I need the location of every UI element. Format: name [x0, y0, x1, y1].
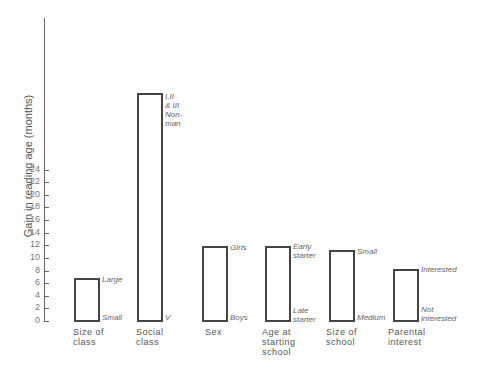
y-tick-label: 0 — [10, 315, 40, 325]
bar-social-class — [137, 93, 163, 322]
y-tick — [44, 321, 49, 322]
y-tick — [44, 207, 49, 208]
annotation-small-school: Small — [357, 247, 377, 256]
category-age-at-starting-school: Age atstartingschool — [262, 327, 296, 357]
y-tick — [44, 308, 49, 309]
bar-size-of-class — [74, 278, 100, 322]
bar-parental-interest — [393, 269, 419, 322]
bar-sex — [202, 246, 228, 322]
y-tick — [44, 283, 49, 284]
category-size-of-school: Size ofschool — [326, 327, 357, 347]
y-tick-label: 20 — [10, 189, 40, 199]
y-tick — [44, 245, 49, 246]
annotation-large: Large — [102, 275, 122, 284]
y-tick — [44, 296, 49, 297]
category-size-of-class: Size ofclass — [73, 327, 104, 347]
category-parental-interest: Parentalinterest — [388, 327, 426, 347]
annotation-medium: Medium — [357, 313, 385, 322]
y-tick-label: 16 — [10, 214, 40, 224]
y-tick — [44, 182, 49, 183]
y-tick-label: 12 — [10, 239, 40, 249]
annotation-late-starter: Latestarter — [293, 306, 316, 324]
annotation-interested: Interested — [421, 265, 457, 274]
y-tick-label: 10 — [10, 252, 40, 262]
y-tick-label: 6 — [10, 277, 40, 287]
y-tick-label: 24 — [10, 164, 40, 174]
bar-size-of-school — [329, 250, 355, 322]
annotation-v: V — [165, 313, 170, 322]
y-tick-label: 4 — [10, 290, 40, 300]
y-tick — [44, 195, 49, 196]
y-tick-label: 14 — [10, 227, 40, 237]
y-tick — [44, 258, 49, 259]
bar-age-at-starting-school — [265, 246, 291, 322]
category-social-class: Socialclass — [136, 327, 164, 347]
annotation-early-starter: Earlystarter — [293, 242, 316, 260]
category-sex: Sex — [205, 327, 222, 337]
annotation-not-interested: Notinterested — [421, 305, 456, 323]
annotation-girls: Girls — [230, 243, 246, 252]
y-tick-label: 8 — [10, 265, 40, 275]
y-tick-label: 18 — [10, 201, 40, 211]
annotation-social-top: I,II& IIINon-man — [165, 92, 182, 128]
y-tick — [44, 170, 49, 171]
y-tick-label: 2 — [10, 302, 40, 312]
y-tick — [44, 233, 49, 234]
annotation-boys: Boys — [230, 313, 248, 322]
annotation-small: Small — [102, 313, 122, 322]
y-tick — [44, 271, 49, 272]
y-tick-label: 22 — [10, 176, 40, 186]
y-tick — [44, 220, 49, 221]
